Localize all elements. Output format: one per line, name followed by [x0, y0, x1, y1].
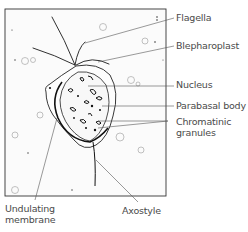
- label-axostyle: Axostyle: [122, 206, 161, 217]
- label-flagella: Flagella: [176, 13, 211, 24]
- label-nucleus: Nucleus: [176, 80, 212, 91]
- label-undulating-membrane-2: membrane: [5, 215, 55, 226]
- label-chromatinic-granules-1: Chromatinic: [176, 117, 231, 128]
- label-blepharoplast: Blepharoplast: [176, 41, 239, 52]
- label-parabasal-body: Parabasal body: [176, 101, 246, 112]
- label-undulating-membrane-1: Undulating: [5, 204, 55, 215]
- label-chromatinic-granules-2: granules: [176, 128, 216, 139]
